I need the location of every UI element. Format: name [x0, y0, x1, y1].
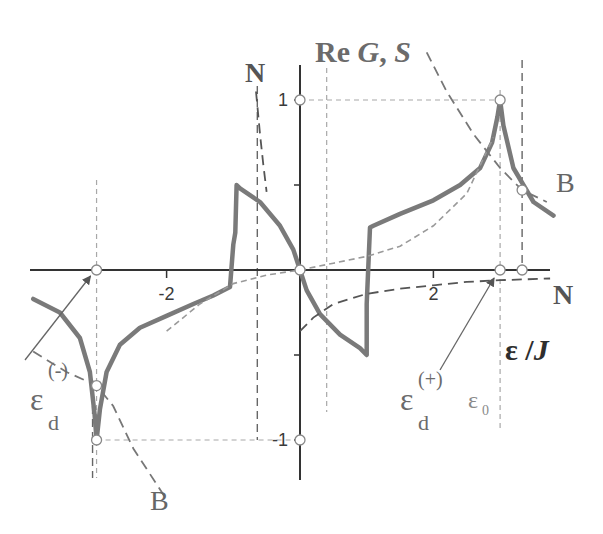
marker-origin	[295, 265, 305, 275]
label-eps-0: ε 0	[468, 387, 489, 418]
label-eps-d-minus: ε (-) d	[30, 359, 68, 435]
annotation-arrows	[25, 276, 494, 370]
marker-b-crossing-left	[92, 381, 102, 391]
svg-text:(+): (+)	[418, 368, 443, 391]
svg-text:d: d	[418, 410, 429, 435]
marker-b-crossing-right	[517, 185, 527, 195]
svg-text:(-): (-)	[48, 359, 68, 382]
marker-eps-0-axis	[517, 265, 527, 275]
arrow-eps-d-plus	[440, 278, 494, 370]
marker-y-one	[295, 95, 305, 105]
series-4	[427, 52, 547, 202]
svg-text:ε: ε	[400, 381, 413, 417]
marker-y-minus-one	[295, 435, 305, 445]
svg-text:ε: ε	[468, 387, 478, 413]
label-n-top: N	[245, 57, 265, 88]
marker-peak-top	[495, 95, 505, 105]
marker-eps-d-minus-axis	[92, 265, 102, 275]
y-tick-label: -1	[272, 430, 288, 450]
svg-text:ε: ε	[30, 381, 43, 417]
y-axis-title: Re G, S	[315, 35, 411, 68]
series-1	[167, 137, 494, 331]
x-tick-label: -2	[159, 284, 175, 304]
axes	[30, 65, 550, 480]
diagram-canvas: -221-1 Re G, S ε /J N N B B ε (-) d ε (+…	[0, 0, 603, 534]
y-tick-label: 1	[278, 90, 288, 110]
label-b-bottom: B	[150, 485, 169, 516]
series-group	[33, 52, 553, 499]
label-n-right: N	[553, 279, 573, 310]
series-3	[300, 279, 550, 332]
svg-text:0: 0	[482, 403, 489, 418]
marker-peak-bottom	[92, 435, 102, 445]
svg-text:d: d	[48, 410, 59, 435]
label-b-right: B	[556, 167, 575, 198]
x-tick-label: 2	[428, 284, 438, 304]
marker-eps-d-plus-axis	[495, 265, 505, 275]
x-axis-title: ε /J	[505, 333, 550, 366]
label-eps-d-plus: ε (+) d	[400, 368, 443, 435]
